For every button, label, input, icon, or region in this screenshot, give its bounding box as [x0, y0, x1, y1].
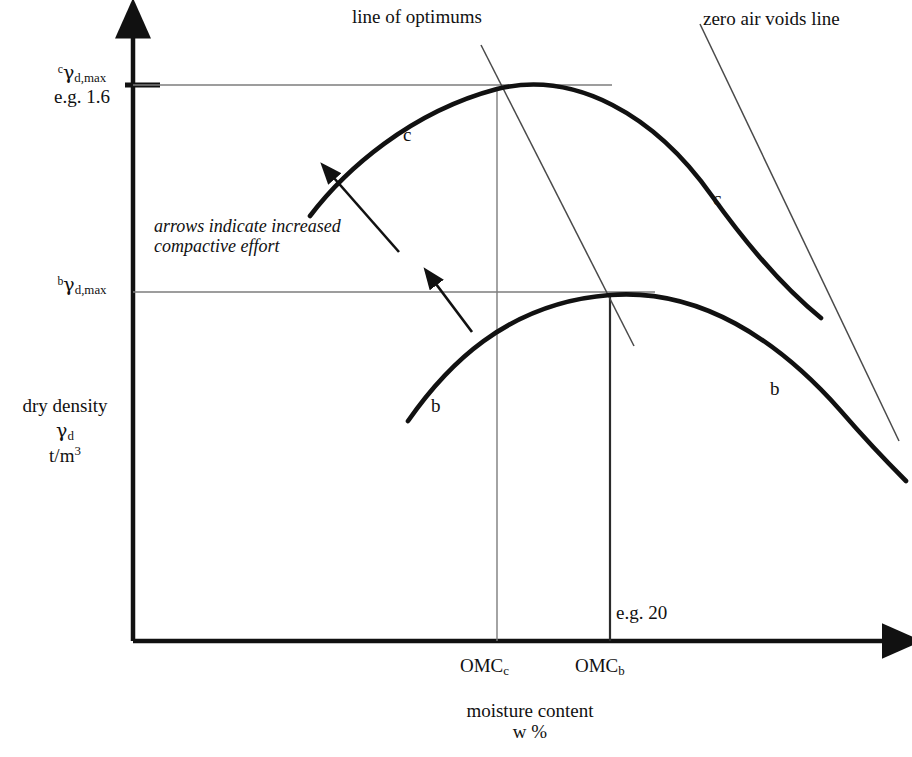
- omc-b-subscript: b: [618, 663, 624, 678]
- x-axis-title-line1: moisture content: [420, 700, 640, 721]
- annotation-line-of-optimums: line of optimums: [352, 6, 482, 27]
- annotation-arrows-note-line1: arrows indicate increased: [154, 216, 341, 236]
- y-tick-label-gamma-d-max-c: cγd,max e.g. 1.6: [36, 62, 128, 107]
- reference-lines: [133, 85, 655, 641]
- gamma-symbol-c: γ: [63, 61, 74, 83]
- annotation-arrows-note-line2: compactive effort: [154, 236, 341, 256]
- omc-c-base: OMC: [460, 655, 503, 676]
- y-axis-title-line1: dry density: [6, 395, 124, 416]
- curve-c: [310, 85, 821, 318]
- gamma-symbol-axis: γ: [56, 419, 67, 441]
- y-tick-label-gamma-d-max-b-symbol: bγd,max: [36, 274, 128, 298]
- gamma-subscript-c: d,max: [74, 70, 106, 85]
- annotation-zero-air-voids-line: zero air voids line: [703, 8, 840, 29]
- omc-c-subscript: c: [503, 663, 509, 678]
- axis-group: [133, 34, 886, 641]
- y-axis-units-base: t/m: [49, 445, 74, 466]
- x-axis-title-line2: w %: [420, 721, 640, 742]
- curve-label-c-upper-left: c: [403, 124, 411, 145]
- curve-label-c-upper-right: c: [713, 188, 721, 209]
- zero-air-voids-line: [700, 24, 899, 441]
- diagram-canvas: line of optimums zero air voids line cγd…: [0, 0, 912, 757]
- arrow-upper: [334, 178, 399, 252]
- annotation-eg-20: e.g. 20: [616, 602, 667, 623]
- gamma-symbol-b: γ: [63, 273, 74, 295]
- x-tick-label-omc-c: OMCc: [460, 655, 509, 679]
- annotation-arrows-note: arrows indicate increased compactive eff…: [154, 216, 341, 256]
- curve-b: [408, 294, 906, 481]
- line-of-optimums-line: [481, 45, 634, 346]
- gamma-subscript-b: d,max: [75, 282, 107, 297]
- curve-label-b-lower-left: b: [431, 395, 441, 416]
- omc-b-base: OMC: [575, 655, 618, 676]
- arrow-lower: [436, 284, 472, 332]
- curve-label-b-lower-right: b: [770, 378, 780, 399]
- x-axis-title: moisture content w %: [420, 700, 640, 743]
- y-axis-units-exponent: 3: [74, 443, 80, 458]
- x-tick-label-omc-b: OMCb: [575, 655, 625, 679]
- y-tick-label-gamma-d-max-c-symbol: cγd,max: [36, 62, 128, 86]
- y-axis-title: dry density γd t/m3: [6, 395, 124, 466]
- y-tick-label-gamma-d-max-b: bγd,max: [36, 274, 128, 298]
- gamma-subscript-axis: d: [67, 429, 73, 444]
- y-tick-note-c: e.g. 1.6: [36, 86, 128, 107]
- y-axis-title-line3: t/m3: [6, 444, 124, 466]
- y-axis-title-line2: γd: [6, 420, 124, 444]
- effort-arrows: [334, 178, 472, 332]
